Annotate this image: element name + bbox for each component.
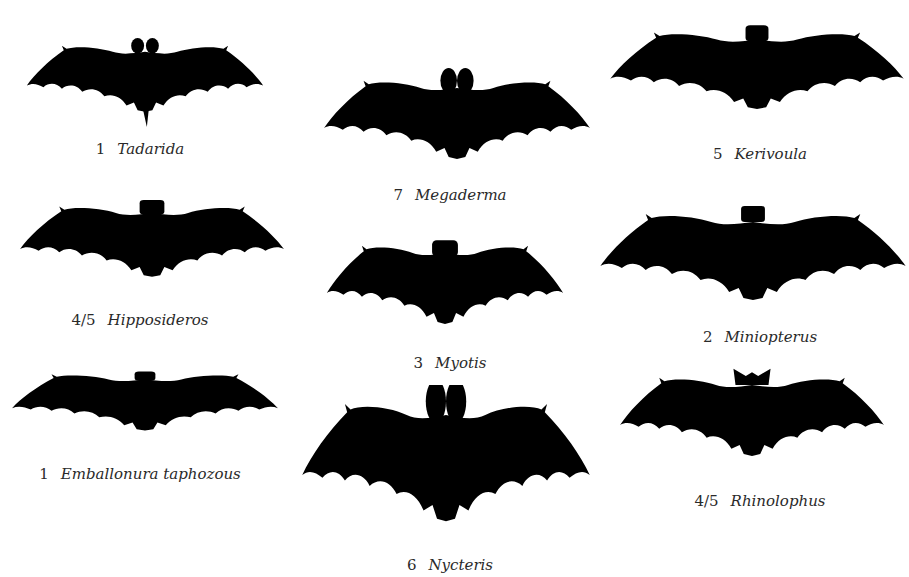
bat-silhouette-miniopterus (598, 200, 908, 310)
label-myotis: 3Myotis (414, 354, 487, 372)
bat-silhouette-hipposideros (18, 195, 286, 285)
bat-silhouette-emballonura (10, 365, 280, 437)
label-megaderma: 7Megaderma (393, 186, 506, 204)
bat-silhouette-myotis (325, 233, 565, 333)
bat-silhouette-kerivoula (608, 20, 906, 118)
label-tadarida: 1Tadarida (96, 140, 184, 158)
bat-silhouette-rhinolophus (618, 365, 886, 465)
label-miniopterus: 2Miniopterus (703, 328, 817, 346)
bat-silhouette-megaderma (322, 68, 592, 168)
label-nycteris: 6Nycteris (407, 556, 493, 574)
label-kerivoula: 5Kerivoula (713, 145, 807, 163)
label-rhinolophus: 4/5Rhinolophus (694, 492, 825, 510)
bat-silhouette-tadarida (25, 35, 265, 127)
label-emballonura-taphozous: 1Emballonura taphozous (39, 465, 241, 483)
label-hipposideros: 4/5Hipposideros (71, 311, 208, 329)
bat-silhouette-nycteris (300, 385, 592, 535)
